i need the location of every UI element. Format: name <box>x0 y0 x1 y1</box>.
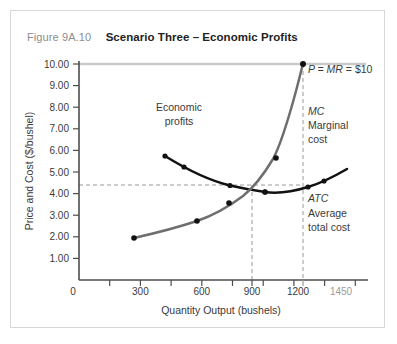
mc-curve <box>134 64 303 238</box>
economic-profits-line1: Economic <box>156 101 202 113</box>
annotation-atc: ATC Average total cost <box>307 192 350 233</box>
y-tick-label: 7.00 <box>50 123 70 134</box>
x-tick-label: 900 <box>244 286 261 297</box>
origin-label: 0 <box>70 286 76 297</box>
atc-line3: total cost <box>308 221 350 233</box>
x-tick-labels: 300 600 900 1200 1450 <box>132 286 353 297</box>
atc-line2: Average <box>308 207 347 219</box>
annotation-economic-profits: Economic profits <box>156 101 202 127</box>
y-tick-label: 5.00 <box>50 167 70 178</box>
x-tick-label: 1200 <box>287 286 310 297</box>
y-tick-label: 10.00 <box>44 59 69 70</box>
svg-text:P = MR = $10: P = MR = $10 <box>308 63 373 75</box>
x-tick-label: 600 <box>193 286 210 297</box>
economic-profits-line2: profits <box>165 115 194 127</box>
x-axis-title: Quantity Output (bushels) <box>161 304 281 316</box>
y-tick-label: 2.00 <box>50 231 70 242</box>
y-axis-title: Price and Cost ($/bushel) <box>23 112 35 230</box>
mc-line2: Marginal <box>308 119 348 131</box>
y-tick-label: 1.00 <box>50 253 70 264</box>
y-tick-label: 6.00 <box>50 145 70 156</box>
atc-abbrev: ATC <box>307 192 329 204</box>
mc-abbrev: MC <box>308 105 325 117</box>
y-tick-label: 8.00 <box>50 102 70 113</box>
y-tick-marks <box>73 64 79 258</box>
mc-line3: cost <box>308 133 327 145</box>
atc-curve <box>165 156 347 193</box>
price-mr-italic: P = MR <box>308 63 343 75</box>
mc-markers <box>131 61 306 241</box>
x-tick-label: 1450 <box>330 286 353 297</box>
annotation-price-mr: P = MR = $10 <box>308 63 373 75</box>
figure-frame: Figure 9A.10 Scenario Three – Economic P… <box>10 10 385 328</box>
y-tick-label: 3.00 <box>50 210 70 221</box>
y-tick-labels: 10.00 9.00 8.00 7.00 6.00 5.00 4.00 3.00… <box>44 59 69 264</box>
price-mr-rest: = $10 <box>343 63 373 75</box>
economics-chart: 10.00 9.00 8.00 7.00 6.00 5.00 4.00 3.00… <box>11 11 386 329</box>
y-tick-label: 4.00 <box>50 188 70 199</box>
x-tick-label: 300 <box>132 286 149 297</box>
y-tick-label: 9.00 <box>50 80 70 91</box>
annotation-mc: MC Marginal cost <box>308 105 348 145</box>
